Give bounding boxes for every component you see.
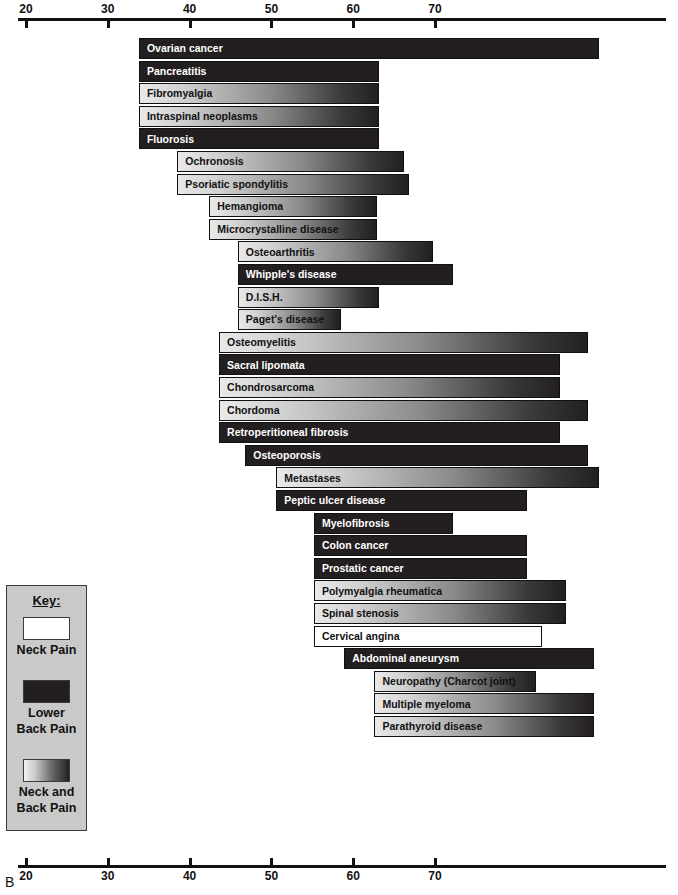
axis-tick-20 bbox=[25, 858, 28, 866]
axis-tick-30 bbox=[107, 858, 110, 866]
bar-microcrystalline-disease: Microcrystalline disease bbox=[209, 219, 377, 240]
bar-label: Osteoporosis bbox=[246, 450, 321, 461]
legend-label-neck-and-back-pain-line2: Back Pain bbox=[7, 801, 86, 815]
bar-chart-plot-area: Ovarian cancerPancreatitisFibromyalgiaIn… bbox=[0, 0, 678, 760]
bar-label: Chondrosarcoma bbox=[220, 382, 314, 393]
bar-retroperitioneal-fibrosis: Retroperitioneal fibrosis bbox=[219, 422, 560, 443]
legend-label-lower-back-pain-line2: Back Pain bbox=[7, 722, 86, 736]
bar-parathyroid-disease: Parathyroid disease bbox=[374, 716, 593, 737]
bar-label: Multiple myeloma bbox=[375, 699, 470, 710]
bar-label: Paget's disease bbox=[239, 314, 324, 325]
axis-tick-60 bbox=[352, 858, 355, 866]
bar-label: Hemangioma bbox=[210, 201, 283, 212]
bar-label: Whipple's disease bbox=[239, 269, 337, 280]
axis-tick-label-60: 60 bbox=[333, 869, 373, 883]
bar-peptic-ulcer-disease: Peptic ulcer disease bbox=[276, 490, 526, 511]
bar-label: Peptic ulcer disease bbox=[277, 495, 385, 506]
axis-tick-label-30: 30 bbox=[88, 869, 128, 883]
bar-label: Psoriatic spondylitis bbox=[178, 179, 288, 190]
bar-ovarian-cancer: Ovarian cancer bbox=[139, 38, 600, 59]
bar-cervical-angina: Cervical angina bbox=[314, 626, 542, 647]
legend-swatch-neck-and-back-pain bbox=[23, 759, 70, 782]
legend-spacer-1 bbox=[7, 659, 86, 671]
bar-label: Pancreatitis bbox=[140, 66, 207, 77]
bar-label: Osteoarthritis bbox=[239, 247, 315, 258]
bar-sacral-lipomata: Sacral lipomata bbox=[219, 354, 560, 375]
bar-label: Prostatic cancer bbox=[315, 563, 404, 574]
legend-label-lower-back-pain-line1: Lower bbox=[7, 706, 86, 720]
legend-key: Key: Neck Pain Lower Back Pain Neck and … bbox=[6, 585, 87, 831]
bar-label: Parathyroid disease bbox=[375, 721, 482, 732]
bar-prostatic-cancer: Prostatic cancer bbox=[314, 558, 527, 579]
legend-label-neck-and-back-pain-line1: Neck and bbox=[7, 785, 86, 799]
bar-colon-cancer: Colon cancer bbox=[314, 535, 527, 556]
bar-label: Spinal stenosis bbox=[315, 608, 399, 619]
axis-tick-label-40: 40 bbox=[170, 869, 210, 883]
panel-letter: B bbox=[5, 874, 14, 890]
bar-hemangioma: Hemangioma bbox=[209, 196, 377, 217]
bar-label: Neuropathy (Charcot joint) bbox=[375, 676, 515, 687]
bar-fibromyalgia: Fibromyalgia bbox=[139, 83, 379, 104]
axis-tick-label-70: 70 bbox=[415, 869, 455, 883]
bar-abdominal-aneurysm: Abdominal aneurysm bbox=[344, 648, 593, 669]
bar-psoriatic-spondylitis: Psoriatic spondylitis bbox=[177, 174, 408, 195]
axis-tick-50 bbox=[270, 858, 273, 866]
legend-title: Key: bbox=[7, 593, 86, 608]
bar-chordoma: Chordoma bbox=[219, 400, 588, 421]
legend-swatch-neck-pain bbox=[23, 617, 70, 640]
bar-label: Osteomyelitis bbox=[220, 337, 296, 348]
bar-osteoporosis: Osteoporosis bbox=[245, 445, 588, 466]
bar-label: Fluorosis bbox=[140, 134, 194, 145]
bar-label: Ochronosis bbox=[178, 156, 243, 167]
bar-osteoarthritis: Osteoarthritis bbox=[238, 241, 433, 262]
bar-label: Metastases bbox=[277, 473, 341, 484]
bar-label: Intraspinal neoplasms bbox=[140, 111, 258, 122]
bar-label: Sacral lipomata bbox=[220, 360, 305, 371]
bar-whipple-s-disease: Whipple's disease bbox=[238, 264, 453, 285]
bar-neuropathy-charcot-joint: Neuropathy (Charcot joint) bbox=[374, 671, 536, 692]
bar-label: Abdominal aneurysm bbox=[345, 653, 459, 664]
bar-label: Fibromyalgia bbox=[140, 88, 212, 99]
bar-polymyalgia-rheumatica: Polymyalgia rheumatica bbox=[314, 580, 566, 601]
bar-spinal-stenosis: Spinal stenosis bbox=[314, 603, 566, 624]
bar-fluorosis: Fluorosis bbox=[139, 128, 379, 149]
bar-multiple-myeloma: Multiple myeloma bbox=[374, 693, 593, 714]
bar-osteomyelitis: Osteomyelitis bbox=[219, 332, 588, 353]
bar-label: Cervical angina bbox=[315, 631, 400, 642]
axis-tick-40 bbox=[189, 858, 192, 866]
axis-tick-label-50: 50 bbox=[251, 869, 291, 883]
bar-label: Microcrystalline disease bbox=[210, 224, 338, 235]
bar-pancreatitis: Pancreatitis bbox=[139, 61, 379, 82]
bar-label: D.I.S.H. bbox=[239, 292, 283, 303]
axis-tick-70 bbox=[434, 858, 437, 866]
bar-paget-s-disease: Paget's disease bbox=[238, 309, 341, 330]
bar-label: Ovarian cancer bbox=[140, 43, 223, 54]
legend-swatch-lower-back-pain bbox=[23, 680, 70, 703]
bar-ochronosis: Ochronosis bbox=[177, 151, 404, 172]
legend-label-neck-pain: Neck Pain bbox=[7, 643, 86, 657]
bar-d-i-s-h: D.I.S.H. bbox=[238, 287, 380, 308]
bar-label: Myelofibrosis bbox=[315, 518, 390, 529]
bar-label: Polymyalgia rheumatica bbox=[315, 586, 442, 597]
legend-spacer-2 bbox=[7, 738, 86, 750]
bar-label: Chordoma bbox=[220, 405, 280, 416]
bar-myelofibrosis: Myelofibrosis bbox=[314, 513, 453, 534]
bar-label: Colon cancer bbox=[315, 540, 389, 551]
bar-chondrosarcoma: Chondrosarcoma bbox=[219, 377, 560, 398]
axis-line-bottom bbox=[18, 865, 666, 868]
bottom-axis: 203040506070 bbox=[0, 856, 678, 880]
bar-label: Retroperitioneal fibrosis bbox=[220, 427, 348, 438]
bar-intraspinal-neoplasms: Intraspinal neoplasms bbox=[139, 106, 379, 127]
bar-metastases: Metastases bbox=[276, 467, 599, 488]
